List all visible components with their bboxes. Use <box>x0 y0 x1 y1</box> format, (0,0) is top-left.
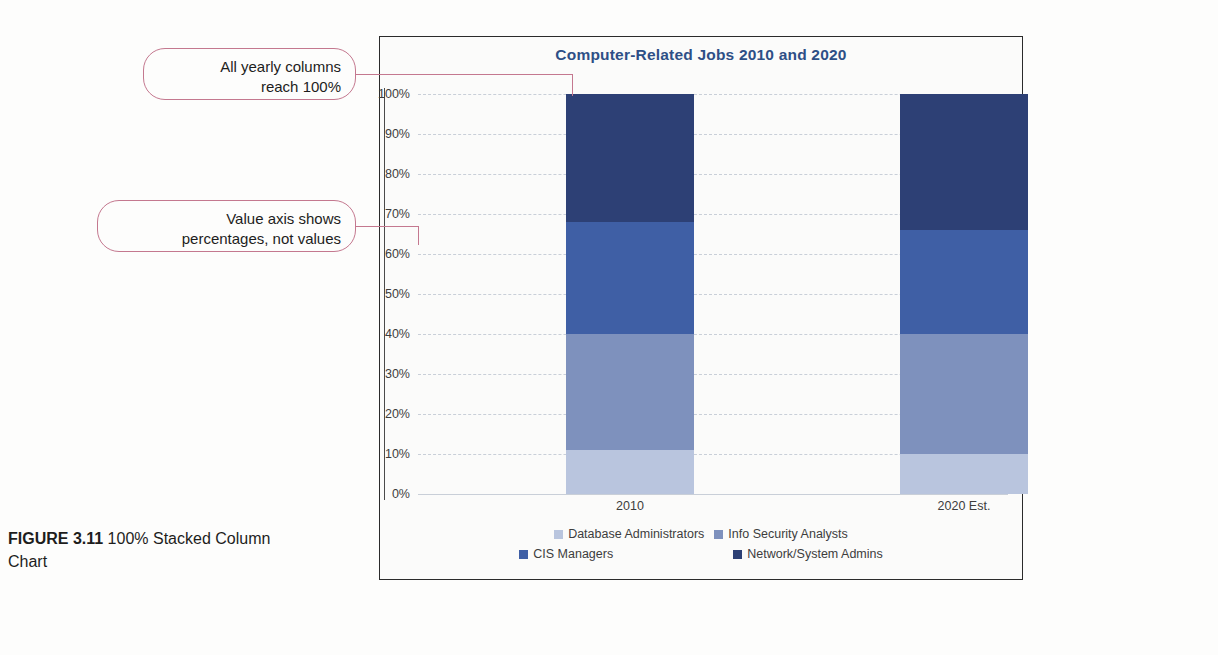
value-axis-tick-80%: 80% <box>385 167 410 181</box>
callout-value-axis-percentages: Value axis shows percentages, not values <box>97 200 356 252</box>
callout-all-columns-reach-100: All yearly columns reach 100% <box>143 48 356 100</box>
plot-area: 0%10%20%30%40%50%60%70%80%90%100% 201020… <box>418 94 1008 494</box>
legend-label: Info Security Analysts <box>728 527 848 541</box>
category-label-2010: 2010 <box>530 499 730 513</box>
legend-swatch-icon <box>714 530 723 539</box>
chart-panel: Computer-Related Jobs 2010 and 2020 0%10… <box>379 36 1023 580</box>
legend-swatch-icon <box>554 530 563 539</box>
chart-title: Computer-Related Jobs 2010 and 2020 <box>380 46 1022 64</box>
value-axis-tick-10%: 10% <box>385 447 410 461</box>
callout-1-line-1: All yearly columns <box>158 57 341 77</box>
legend-label: Database Administrators <box>568 527 704 541</box>
callout-1-leader-vertical <box>572 74 573 96</box>
legend-item-info-security-analysts[interactable]: Info Security Analysts <box>714 527 848 541</box>
value-axis-tick-0%: 0% <box>392 487 410 501</box>
category-label-2020-est: 2020 Est. <box>864 499 1064 513</box>
legend-swatch-icon <box>519 550 528 559</box>
legend-swatch-icon <box>733 550 742 559</box>
bar-segment-network-system-admins <box>900 94 1028 230</box>
value-axis-tick-100%: 100% <box>378 87 410 101</box>
bar-column-2020-est <box>900 94 1028 494</box>
callout-1-leader-horizontal <box>356 74 573 75</box>
bar-segment-cis-managers <box>566 222 694 334</box>
bar-segment-network-system-admins <box>566 94 694 222</box>
gridline-0% <box>418 494 1008 495</box>
figure-caption: FIGURE 3.11 100% Stacked Column Chart <box>8 527 308 573</box>
value-axis-tick-20%: 20% <box>385 407 410 421</box>
value-axis-tick-50%: 50% <box>385 287 410 301</box>
value-axis-tick-40%: 40% <box>385 327 410 341</box>
legend-item-cis-managers[interactable]: CIS Managers <box>519 547 733 561</box>
bar-segment-database-administrators <box>566 450 694 494</box>
legend-item-network-system-admins[interactable]: Network/System Admins <box>733 547 882 561</box>
legend-label: CIS Managers <box>533 547 613 561</box>
callout-1-line-2: reach 100% <box>158 77 341 97</box>
bar-segment-info-security-analysts <box>900 334 1028 454</box>
bar-column-2010 <box>566 94 694 494</box>
value-axis-tick-30%: 30% <box>385 367 410 381</box>
figure-label: FIGURE 3.11 <box>8 530 103 547</box>
value-axis-tick-70%: 70% <box>385 207 410 221</box>
chart-legend: Database AdministratorsInfo Security Ana… <box>380 527 1022 561</box>
callout-2-line-1: Value axis shows <box>112 209 341 229</box>
callout-2-leader-horizontal <box>356 226 419 227</box>
bar-segment-cis-managers <box>900 230 1028 334</box>
bar-segment-database-administrators <box>900 454 1028 494</box>
value-axis-tick-60%: 60% <box>385 247 410 261</box>
legend-row: CIS ManagersNetwork/System Admins <box>519 547 882 561</box>
legend-row: Database AdministratorsInfo Security Ana… <box>554 527 848 541</box>
legend-item-database-administrators[interactable]: Database Administrators <box>554 527 704 541</box>
value-axis-tick-90%: 90% <box>385 127 410 141</box>
callout-2-leader-vertical <box>418 226 419 245</box>
legend-label: Network/System Admins <box>747 547 882 561</box>
callout-2-line-2: percentages, not values <box>112 229 341 249</box>
bar-segment-info-security-analysts <box>566 334 694 450</box>
